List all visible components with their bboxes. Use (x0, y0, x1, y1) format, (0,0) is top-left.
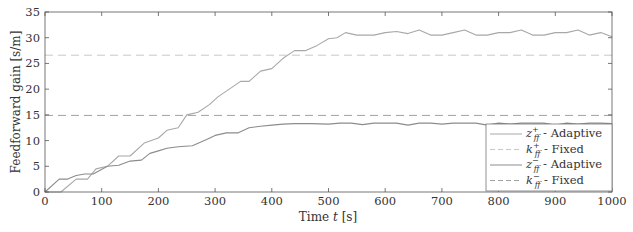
legend-item-label: z+ff - Adaptive (525, 125, 602, 142)
x-axis-label: Time t [s] (299, 210, 357, 224)
x-tick-label: 700 (431, 194, 453, 208)
y-tick-label: 0 (33, 185, 40, 199)
x-tick-label: 600 (374, 194, 396, 208)
x-tick-label: 0 (41, 194, 48, 208)
x-tick-label: 100 (91, 194, 113, 208)
legend-item-label: k+ff - Fixed (526, 141, 584, 158)
x-tick-label: 800 (488, 194, 510, 208)
legend: z+ff - Adaptivek+ff - Fixedz−ff - Adapti… (486, 124, 612, 191)
x-axis-label-prefix: Time (299, 210, 333, 224)
line-chart: 0100200300400500600700800900100005101520… (0, 0, 633, 232)
x-tick-label: 900 (544, 194, 566, 208)
x-tick-label: 1000 (597, 194, 626, 208)
y-tick-label: 20 (25, 82, 40, 96)
y-tick-label: 35 (25, 5, 40, 19)
x-axis-label-unit: [s] (338, 210, 357, 224)
y-tick-label: 30 (25, 31, 40, 45)
y-tick-label: 25 (25, 56, 40, 70)
legend-item-label: z−ff - Adaptive (525, 156, 602, 173)
x-tick-label: 400 (261, 194, 283, 208)
chart: 0100200300400500600700800900100005101520… (0, 0, 633, 232)
x-tick-label: 200 (147, 194, 169, 208)
legend-item-label: k−ff - Fixed (526, 172, 584, 189)
y-tick-label: 15 (25, 108, 40, 122)
y-tick-label: 5 (33, 159, 40, 173)
y-tick-label: 10 (25, 134, 40, 148)
x-tick-label: 500 (318, 194, 340, 208)
x-tick-label: 300 (204, 194, 226, 208)
y-axis-label: Feedforward gain [s/m] (9, 31, 23, 174)
